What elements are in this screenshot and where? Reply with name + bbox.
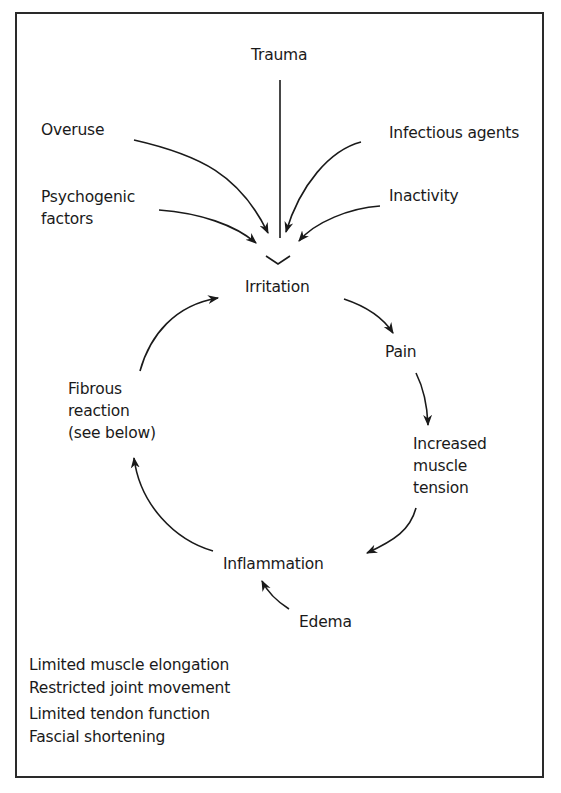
- psychogenic-factors-label: Psychogenic factors: [41, 186, 135, 230]
- consequence-item: Fascial shortening: [29, 726, 230, 749]
- convergence-chevron: [266, 256, 290, 264]
- infectious-agents-arrow: [286, 142, 361, 232]
- inactivity-label: Inactivity: [389, 185, 459, 207]
- tension-to-inflammation-arrow: [367, 508, 416, 553]
- overuse-label: Overuse: [41, 119, 104, 141]
- irritation-to-pain-arrow: [344, 299, 393, 333]
- consequence-item: Restricted joint movement: [29, 677, 230, 700]
- inactivity-arrow: [299, 206, 380, 241]
- consequences-list: Limited muscle elongation Restricted joi…: [29, 654, 230, 749]
- pain-to-tension-arrow: [416, 373, 428, 425]
- trauma-label: Trauma: [251, 44, 307, 66]
- overuse-arrow: [134, 140, 268, 233]
- pain-label: Pain: [385, 341, 416, 363]
- edema-label: Edema: [299, 611, 352, 633]
- inflammation-label: Inflammation: [223, 553, 324, 575]
- irritation-label: Irritation: [245, 276, 310, 298]
- psychogenic-arrow: [159, 210, 256, 243]
- consequence-item: Limited tendon function: [29, 703, 230, 726]
- fibrous-reaction-label: Fibrous reaction (see below): [68, 378, 156, 444]
- fibrous-to-irritation-arrow: [140, 298, 218, 371]
- inflammation-to-fibrous-arrow: [134, 458, 213, 551]
- consequence-item: Limited muscle elongation: [29, 654, 230, 677]
- edema-to-inflammation-arrow: [262, 581, 289, 609]
- increased-muscle-tension-label: Increased muscle tension: [413, 433, 487, 499]
- infectious-agents-label: Infectious agents: [389, 122, 519, 144]
